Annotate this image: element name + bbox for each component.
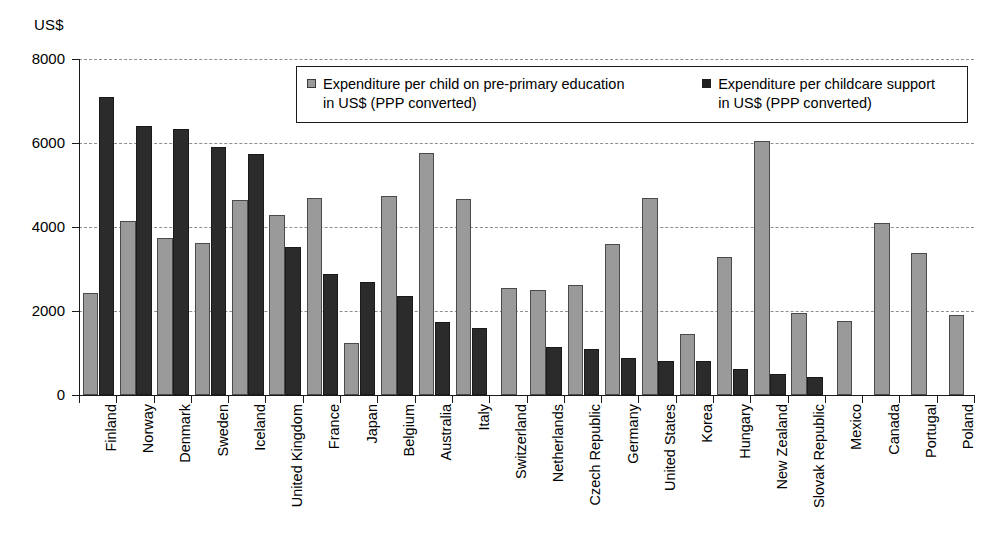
x-axis-label-france: France — [327, 404, 342, 449]
x-axis-label-netherlands: Netherlands — [551, 404, 566, 482]
x-tick-mark — [116, 395, 117, 403]
x-axis-label-text: United Kingdom — [290, 404, 305, 507]
y-tick-label-6000: 6000 — [0, 134, 65, 151]
bar-series-2 — [807, 377, 823, 395]
x-axis-labels: FinlandNorwayDenmarkSwedenIcelandUnited … — [79, 404, 974, 554]
x-tick-mark — [638, 395, 639, 403]
legend-label-series-2: Expenditure per childcare support in US$… — [718, 75, 935, 113]
bar-series-1 — [157, 238, 173, 396]
legend-label-series-2-line-2: in US$ (PPP converted) — [718, 94, 935, 113]
x-axis-label-italy: Italy — [477, 404, 492, 431]
chart-legend: Expenditure per child on pre-primary edu… — [296, 66, 968, 123]
x-axis-label-new-zealand: New Zealand — [775, 404, 790, 489]
bar-series-2 — [323, 274, 339, 395]
x-tick-mark — [788, 395, 789, 403]
bar-series-2 — [546, 347, 562, 395]
bar-series-1 — [911, 253, 927, 395]
x-axis-label-text: Denmark — [178, 404, 193, 463]
y-tick-mark-8000 — [72, 59, 79, 60]
x-tick-mark — [228, 395, 229, 403]
x-axis-label-text: Australia — [439, 404, 454, 460]
bar-group — [79, 59, 116, 395]
y-tick-label-4000: 4000 — [0, 218, 65, 235]
bar-group — [191, 59, 228, 395]
x-tick-mark — [527, 395, 528, 403]
x-axis-label-text: Hungary — [738, 404, 753, 459]
bar-series-2 — [136, 126, 152, 395]
bar-chart: US$ 02000400060008000 FinlandNorwayDenma… — [0, 0, 986, 556]
x-tick-mark — [601, 395, 602, 403]
bar-series-1 — [120, 221, 136, 395]
bar-series-1 — [501, 288, 517, 395]
bar-series-1 — [419, 153, 435, 395]
legend-label-series-1-line-2: in US$ (PPP converted) — [323, 94, 624, 113]
x-tick-mark — [564, 395, 565, 403]
bar-series-2 — [770, 374, 786, 395]
x-axis-label-japan: Japan — [365, 404, 380, 444]
bar-series-2 — [584, 349, 600, 395]
bar-series-2 — [397, 296, 413, 395]
bar-series-1 — [791, 313, 807, 395]
bar-series-2 — [99, 97, 115, 395]
x-axis-label-text: Czech Republic — [588, 404, 603, 506]
x-tick-mark — [862, 395, 863, 403]
x-axis-label-text: New Zealand — [775, 404, 790, 489]
bar-group — [228, 59, 265, 395]
x-axis-label-sweden: Sweden — [216, 404, 231, 456]
x-axis-label-mexico: Mexico — [849, 404, 864, 450]
legend-swatch-icon-series-1 — [307, 79, 316, 88]
x-axis-label-poland: Poland — [961, 404, 976, 449]
x-axis-label-hungary: Hungary — [738, 404, 753, 459]
bar-series-1 — [344, 343, 360, 396]
y-tick-mark-2000 — [72, 311, 79, 312]
x-tick-mark — [825, 395, 826, 403]
bar-series-1 — [269, 215, 285, 395]
bar-group — [154, 59, 191, 395]
x-tick-mark — [937, 395, 938, 403]
bar-series-1 — [381, 196, 397, 395]
x-axis-label-text: Portugal — [924, 404, 939, 458]
x-axis-label-switzerland: Switzerland — [514, 404, 529, 479]
x-axis-label-norway: Norway — [141, 404, 156, 453]
bar-series-1 — [530, 290, 546, 395]
x-tick-mark — [676, 395, 677, 403]
legend-label-series-2-line-1: Expenditure per childcare support — [718, 75, 935, 94]
bar-series-2 — [211, 147, 227, 395]
bar-series-2 — [472, 328, 488, 395]
bar-series-1 — [837, 321, 853, 395]
x-axis-label-text: Canada — [887, 404, 902, 455]
bar-series-1 — [456, 199, 472, 395]
x-axis-label-text: France — [327, 404, 342, 449]
y-tick-mark-0 — [72, 395, 79, 396]
x-axis-label-text: Slovak Republic — [812, 404, 827, 508]
x-tick-mark — [265, 395, 266, 403]
x-axis-label-text: Mexico — [849, 404, 864, 450]
bar-series-1 — [195, 243, 211, 395]
x-tick-mark — [340, 395, 341, 403]
bar-series-1 — [232, 200, 248, 395]
x-axis-label-finland: Finland — [104, 404, 119, 452]
x-axis-label-belgium: Belgium — [402, 404, 417, 456]
y-axis-unit-label: US$ — [34, 16, 64, 33]
x-axis-label-text: Japan — [365, 404, 380, 444]
bar-group — [116, 59, 153, 395]
x-axis-label-korea: Korea — [700, 404, 715, 443]
bar-series-1 — [717, 257, 733, 395]
x-tick-mark — [377, 395, 378, 403]
bar-series-1 — [307, 198, 323, 395]
x-tick-mark — [191, 395, 192, 403]
x-axis-label-united-kingdom: United Kingdom — [290, 404, 305, 507]
x-axis-label-portugal: Portugal — [924, 404, 939, 458]
x-axis-label-iceland: Iceland — [253, 404, 268, 451]
y-tick-mark-4000 — [72, 227, 79, 228]
bar-series-1 — [83, 293, 99, 395]
bar-series-2 — [733, 369, 749, 395]
y-tick-label-8000: 8000 — [0, 50, 65, 67]
x-axis-label-text: Norway — [141, 404, 156, 453]
bar-series-1 — [642, 198, 658, 395]
legend-label-series-1: Expenditure per child on pre-primary edu… — [323, 75, 624, 113]
y-tick-label-2000: 2000 — [0, 302, 65, 319]
legend-label-series-1-line-1: Expenditure per child on pre-primary edu… — [323, 75, 624, 94]
bar-series-2 — [248, 154, 264, 395]
x-axis-label-text: Italy — [477, 404, 492, 431]
